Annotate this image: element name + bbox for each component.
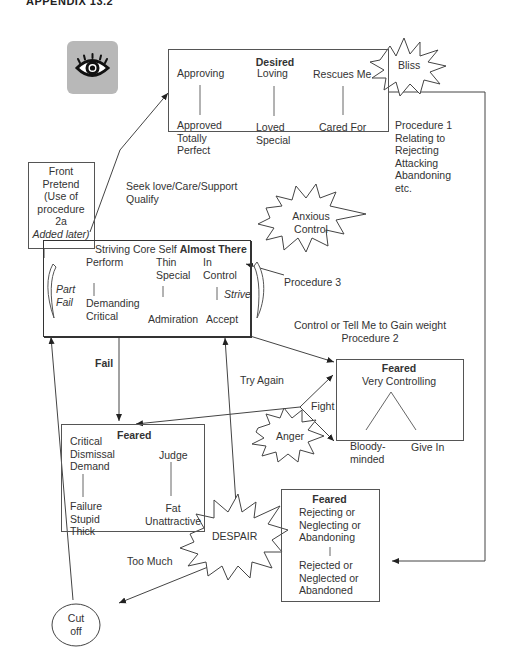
core-accept: Accept <box>206 313 238 326</box>
despair-label: DESPAIR <box>212 530 257 543</box>
feared-give-in: Give In <box>411 441 444 454</box>
procedure1-line6: etc. <box>395 182 452 195</box>
bloody-line1: Bloody- <box>350 440 386 453</box>
failure-line3: Thick <box>70 525 102 538</box>
anxious-line1: Anxious <box>286 210 336 223</box>
seek-label: Seek love/Care/Support Qualify <box>126 180 237 205</box>
feared-critical-left-top: Critical Dismissal Demand <box>70 435 115 473</box>
try-again-label: Try Again <box>240 374 284 387</box>
cutoff-line1: Cut <box>56 612 96 625</box>
core-fail: Fail <box>56 296 75 309</box>
core-in-control: In Control <box>203 256 237 281</box>
desired-approved-line2: Totally <box>177 132 222 145</box>
rejecting-line3: Abandoning <box>299 531 361 544</box>
feared-critical-title: Feared <box>117 429 151 442</box>
core-title-prefix: Striving Core Self <box>95 243 180 255</box>
core-demanding-line2: Critical <box>86 310 140 323</box>
feared-rejecting-title: Feared <box>281 493 378 506</box>
core-control: Control <box>203 269 237 282</box>
cutoff-line2: off <box>56 625 96 638</box>
failure-line1: Failure <box>70 500 102 513</box>
anxious-control-label: Anxious Control <box>286 210 336 235</box>
control-line2: Procedure 2 <box>270 332 470 345</box>
feared-fat: Fat Unattractive <box>138 502 208 527</box>
procedure1-line1: Procedure 1 <box>395 119 452 132</box>
feared-judge: Judge <box>159 449 188 462</box>
feared-rejecting-top: Rejecting or Neglecting or Abandoning <box>299 506 361 544</box>
core-strive: Strive <box>224 288 251 301</box>
procedure3-label: Procedure 3 <box>284 276 341 289</box>
desired-approving: Approving <box>177 67 224 80</box>
procedure1-line5: Abandoning <box>395 169 452 182</box>
desired-rescues: Rescues Me <box>313 68 371 81</box>
rejected-line1: Rejected or <box>299 559 359 572</box>
fight-label: Fight <box>311 400 334 413</box>
core-thin-special: Thin Special <box>156 256 190 281</box>
desired-approved: Approved Totally Perfect <box>177 119 222 157</box>
core-title: Striving Core Self Almost There <box>95 243 247 256</box>
procedure1-line2: Relating to <box>395 132 452 145</box>
procedure1-line3: Rejecting <box>395 144 452 157</box>
rejected-line2: Neglected or <box>299 572 359 585</box>
critical-line2: Dismissal <box>70 448 115 461</box>
feared-critical-left-bottom: Failure Stupid Thick <box>70 500 102 538</box>
seek-line2: Qualify <box>126 193 237 206</box>
bloody-line2: minded <box>350 453 386 466</box>
cutoff-label: Cut off <box>56 612 96 637</box>
feared-rejecting-bottom: Rejected or Neglected or Abandoned <box>299 559 359 597</box>
desired-approved-line1: Approved <box>177 119 222 132</box>
fat-line2: Unattractive <box>138 515 208 528</box>
rejected-line3: Abandoned <box>299 584 359 597</box>
feared-bloody-minded: Bloody- minded <box>350 440 386 465</box>
front-line5: 2a <box>28 215 94 228</box>
core-demanding: Demanding Critical <box>86 297 140 322</box>
critical-line1: Critical <box>70 435 115 448</box>
procedure1-label: Procedure 1 Relating to Rejecting Attack… <box>395 119 452 194</box>
control-line1: Control or Tell Me to Gain weight <box>270 319 470 332</box>
rejecting-line2: Neglecting or <box>299 519 361 532</box>
desired-loved-line2: Special <box>256 134 290 147</box>
anxious-line2: Control <box>286 223 336 236</box>
desired-cared-for: Cared For <box>319 121 366 134</box>
core-part-fail: Part Fail <box>56 283 75 308</box>
core-thin: Thin <box>156 256 190 269</box>
front-line4: procedure <box>28 203 94 216</box>
too-much-label: Too Much <box>127 555 173 568</box>
fat-line1: Fat <box>138 502 208 515</box>
front-box-text: Front Pretend (Use of procedure 2a Added… <box>28 165 94 240</box>
anger-label: Anger <box>276 430 304 443</box>
bliss-label: Bliss <box>398 59 420 72</box>
rejecting-line1: Rejecting or <box>299 506 361 519</box>
core-perform: Perform <box>86 256 123 269</box>
core-in: In <box>203 256 237 269</box>
feared-controlling-title: Feared <box>336 362 462 375</box>
front-line2: Pretend <box>28 178 94 191</box>
feared-controlling-subtitle: Very Controlling <box>336 375 462 388</box>
desired-loving: Loving <box>257 67 288 80</box>
failure-line2: Stupid <box>70 513 102 526</box>
procedure1-line4: Attacking <box>395 157 452 170</box>
front-line3: (Use of <box>28 190 94 203</box>
front-line1: Front <box>28 165 94 178</box>
core-admiration: Admiration <box>148 313 198 326</box>
desired-loved: Loved Special <box>256 121 290 146</box>
core-title-bold: Almost There <box>180 243 247 255</box>
fail-label: Fail <box>95 357 113 370</box>
control-label: Control or Tell Me to Gain weight Proced… <box>270 319 470 344</box>
desired-loved-line1: Loved <box>256 121 290 134</box>
desired-approved-line3: Perfect <box>177 144 222 157</box>
front-line6: Added later) <box>28 228 94 241</box>
core-demanding-line1: Demanding <box>86 297 140 310</box>
core-part: Part <box>56 283 75 296</box>
seek-line1: Seek love/Care/Support <box>126 180 237 193</box>
critical-line3: Demand <box>70 460 115 473</box>
core-special: Special <box>156 269 190 282</box>
